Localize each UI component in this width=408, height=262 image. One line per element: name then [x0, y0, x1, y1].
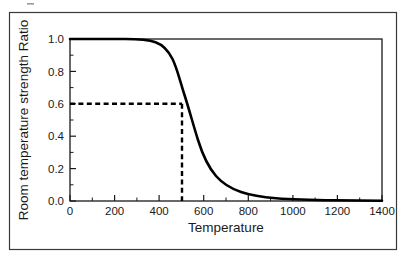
x-axis-tick-labels: 0 200 400 600 800 1000 1200 1400	[67, 205, 395, 217]
x-axis-title: Temperature	[188, 220, 264, 235]
x-tick-label: 200	[105, 205, 124, 217]
data-curve	[70, 39, 382, 201]
y-tick-label: 0.8	[48, 66, 64, 78]
y-tick-label: 0.2	[48, 163, 64, 175]
x-tick-label: 1400	[369, 205, 395, 217]
y-tick-label: 0.4	[48, 130, 65, 142]
x-tick-label: 1000	[280, 205, 306, 217]
chart-figure: 0 200 400 600 800 1000 1200 1400 0.0 0.2…	[0, 0, 408, 262]
y-tick-label: 1.0	[48, 33, 64, 45]
guide-lines	[70, 104, 182, 201]
y-axis-title: Room temperature strength Ratio	[16, 20, 31, 220]
y-tick-label: 0.6	[48, 98, 64, 110]
scan-artifact	[27, 3, 34, 5]
x-tick-label: 0	[67, 205, 73, 217]
x-tick-label: 1200	[325, 205, 351, 217]
y-axis-tick-labels: 0.0 0.2 0.4 0.6 0.8 1.0	[48, 33, 65, 207]
chart-svg: 0 200 400 600 800 1000 1200 1400 0.0 0.2…	[0, 0, 408, 262]
x-tick-label: 600	[194, 205, 213, 217]
x-tick-label: 400	[150, 205, 169, 217]
plot-frame	[70, 39, 382, 201]
y-tick-label: 0.0	[48, 195, 64, 207]
x-tick-label: 800	[239, 205, 258, 217]
